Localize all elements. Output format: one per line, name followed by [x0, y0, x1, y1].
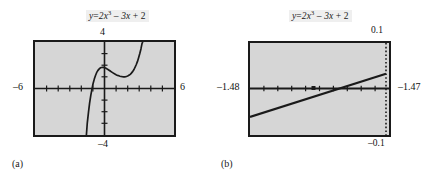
curve-b [250, 74, 386, 117]
caption-a: (a) [12, 158, 23, 169]
equation-exp-b: 3 [311, 9, 314, 16]
plot-svg-a [35, 42, 174, 135]
equation-label-b: y=2x3 – 3x + 2 [289, 10, 352, 22]
equation-term3-a: + 2 [133, 11, 146, 21]
equation-term3-b: + 2 [336, 11, 349, 21]
calculator-screen-a [33, 40, 176, 137]
equation-term2-b: – 3x [317, 11, 334, 21]
axis-label-a-top: 4 [100, 26, 105, 37]
axis-label-a-left: –6 [13, 81, 23, 92]
caption-b: (b) [221, 158, 233, 169]
panel-a: y=2x3 – 3x + 2 [0, 0, 216, 180]
equation-term1-a: 2x [99, 11, 108, 21]
axis-label-a-right: 6 [180, 81, 185, 92]
calculator-screen-b [248, 41, 391, 137]
axis-label-a-bottom: –4 [98, 138, 108, 149]
plot-area-a [35, 42, 174, 135]
panel-b: y=2x3 – 3x + 2 [216, 0, 433, 180]
figure-container: y=2x3 – 3x + 2 [0, 0, 433, 180]
equation-term2-a: – 3x [114, 11, 131, 21]
equation-term1-b: 2x [302, 11, 311, 21]
axis-label-b-left: –1.48 [217, 81, 240, 92]
root-marker-b [312, 86, 316, 90]
axis-label-b-top: 0.1 [371, 25, 383, 35]
plot-area-b [250, 43, 389, 135]
axis-label-b-right: –1.47 [398, 81, 421, 92]
plot-svg-b [250, 43, 389, 135]
axis-label-b-bottom: –0.1 [368, 138, 385, 148]
equation-label-a: y=2x3 – 3x + 2 [86, 10, 149, 22]
equation-exp-a: 3 [108, 9, 111, 16]
